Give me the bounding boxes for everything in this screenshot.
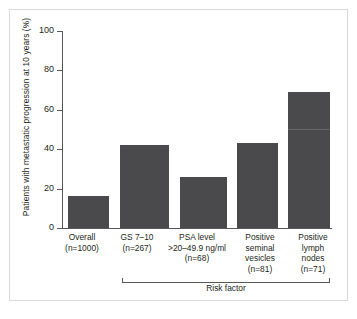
category-label-lymph-nodes: Positive lymph nodes (n=71) [285, 232, 341, 274]
bar-chart-figure: Patients with metastatic progression at … [0, 0, 357, 319]
category-line: >20–49.9 ng/ml [160, 243, 234, 254]
y-tick-label-100: 100 [14, 26, 54, 35]
category-line: Positive [285, 232, 341, 243]
bar-gs-7-10 [120, 145, 169, 228]
y-tick-label-60: 60 [14, 105, 54, 114]
category-line: PSA level [160, 232, 234, 243]
category-line: vesicles [231, 253, 289, 264]
category-line: Overall [52, 232, 112, 243]
category-line: nodes [285, 253, 341, 264]
y-tick-100 [57, 31, 62, 32]
bar-psa-level [180, 177, 227, 228]
y-tick-label-80: 80 [14, 65, 54, 74]
bar-seminal-vesicles [237, 143, 278, 228]
category-line: (n=81) [231, 264, 289, 275]
x-axis-line [62, 228, 332, 229]
plot-area [63, 31, 332, 228]
y-tick-20 [57, 189, 62, 190]
category-line: (n=1000) [52, 243, 112, 254]
category-label-seminal-vesicles: Positive seminal vesicles (n=81) [231, 232, 289, 274]
risk-factor-bracket-label: Risk factor [122, 283, 330, 293]
y-tick-40 [57, 149, 62, 150]
category-line: lymph [285, 243, 341, 254]
y-tick-label-40: 40 [14, 144, 54, 153]
category-line: Positive [231, 232, 289, 243]
y-tick-0 [57, 228, 62, 229]
category-label-psa-level: PSA level >20–49.9 ng/ml (n=68) [160, 232, 234, 264]
bar-lymph-nodes [288, 92, 330, 228]
y-tick-80 [57, 70, 62, 71]
y-tick-label-0: 0 [14, 223, 54, 232]
y-tick-label-20: 20 [14, 184, 54, 193]
category-line: (n=71) [285, 264, 341, 275]
scan-fold-line [288, 129, 330, 130]
bar-overall [68, 196, 109, 228]
category-line: seminal [231, 243, 289, 254]
category-label-overall: Overall (n=1000) [52, 232, 112, 253]
category-line: (n=267) [106, 243, 168, 254]
category-label-gs-7-10: GS 7–10 (n=267) [106, 232, 168, 253]
category-line: GS 7–10 [106, 232, 168, 243]
category-line: (n=68) [160, 253, 234, 264]
y-tick-60 [57, 110, 62, 111]
